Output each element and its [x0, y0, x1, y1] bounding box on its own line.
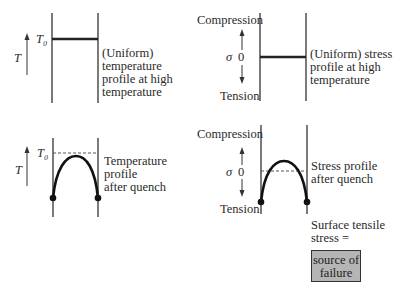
top-left-panel	[25, 13, 99, 103]
tension-label: Tension	[220, 203, 259, 216]
t-axis-label: T	[15, 164, 22, 177]
t0-label: T₀	[37, 147, 48, 160]
tension-label: Tension	[220, 90, 259, 103]
source-of-failure-box: source of failure	[311, 250, 361, 282]
t-axis-label: T	[14, 52, 21, 65]
sigma-label: σ	[226, 166, 232, 179]
zero-label: 0	[238, 51, 244, 64]
temperature-profile-curve	[53, 156, 98, 198]
compression-label: Compression	[197, 14, 263, 27]
stress-profile-curve	[261, 161, 307, 202]
zero-label: 0	[238, 166, 244, 179]
sigma-label: σ	[226, 51, 232, 64]
t0-label: T₀	[36, 33, 47, 46]
diagram-graphics	[0, 0, 393, 290]
compression-label: Compression	[197, 128, 263, 141]
